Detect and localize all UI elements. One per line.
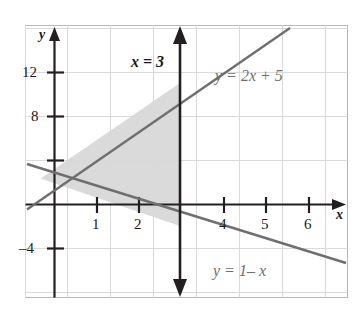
x-tick-label-4: 4	[219, 217, 227, 232]
annotation-y-equals-1-minus-x: y = 1– x	[213, 263, 266, 279]
x-tick-label-5: 5	[261, 217, 269, 232]
y-tick-label-8: 8	[31, 109, 39, 124]
y-tick-label-minus-4: –4	[19, 241, 34, 256]
x-axis-name: x	[336, 208, 343, 222]
x-tick-label-1: 1	[92, 217, 100, 232]
y-axis-name: y	[39, 28, 45, 42]
x-tick-label-2: 2	[134, 217, 142, 232]
y-tick-label-12: 12	[22, 65, 37, 80]
coordinate-plane-svg	[0, 0, 354, 310]
annotation-x-equals-3: x = 3	[131, 54, 164, 70]
annotation-y-equals-2x-plus-5: y = 2x + 5	[215, 68, 283, 84]
graph-figure: y x 12 8 –4 1 2 4 5 6 x = 3 y = 2x + 5 y…	[0, 0, 354, 310]
x-tick-label-6: 6	[304, 217, 312, 232]
